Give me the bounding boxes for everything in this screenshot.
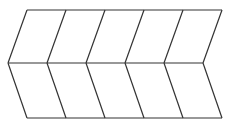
chevron-lower-stroke: [86, 63, 105, 118]
chevron-upper-stroke: [125, 10, 144, 63]
chevron-lower-stroke: [164, 63, 183, 118]
chevron-lower-stroke: [125, 63, 144, 118]
chevron-upper-stroke: [203, 10, 222, 63]
chevron-upper-stroke: [164, 10, 183, 63]
chevron-lower-stroke: [8, 63, 27, 118]
chevron-lower-stroke: [47, 63, 66, 118]
chevron-upper-stroke: [47, 10, 66, 63]
chevron-lower-stroke: [203, 63, 222, 118]
chevron-upper-stroke: [8, 10, 27, 63]
chevron-upper-stroke: [86, 10, 105, 63]
chevron-diagram: [0, 0, 228, 128]
